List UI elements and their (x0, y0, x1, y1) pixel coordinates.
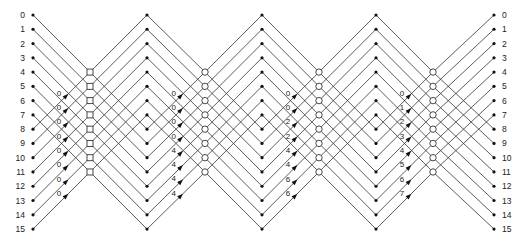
output-index-label: 6 (502, 96, 507, 106)
twiddle-label: 4 (286, 146, 291, 155)
butterfly-line (319, 129, 376, 186)
twiddle-label: 4 (286, 160, 291, 169)
butterfly-line (262, 58, 319, 115)
output-index-label: 12 (502, 181, 512, 191)
adder-circle-icon (202, 169, 208, 175)
butterfly-line (90, 29, 147, 86)
node-dot (260, 99, 263, 102)
input-index-label: 8 (20, 124, 25, 134)
butterfly-line (433, 15, 494, 72)
adder-circle-icon (316, 140, 322, 146)
butterfly-line (262, 15, 319, 72)
butterfly-line (319, 58, 376, 115)
node-dot (145, 85, 148, 88)
node-dot (374, 70, 377, 73)
butterfly-line (376, 172, 433, 229)
input-index-label: 1 (20, 24, 25, 34)
butterfly-line (33, 158, 90, 215)
node-dot (374, 42, 377, 45)
adder-circle-icon (202, 140, 208, 146)
node-dot (260, 213, 263, 216)
adder-square-icon (87, 69, 93, 75)
output-index-label: 7 (502, 110, 507, 120)
twiddle-label: 2 (286, 132, 291, 141)
butterfly-line (90, 172, 147, 229)
adder-circle-icon (430, 69, 436, 75)
node-dot (492, 128, 495, 131)
node-dot (145, 99, 148, 102)
node-dot (492, 56, 495, 59)
butterfly-lines (33, 15, 494, 229)
butterfly-line (262, 172, 319, 229)
node-dot (31, 199, 34, 202)
adder-circle-icon (202, 126, 208, 132)
butterfly-line (33, 58, 90, 115)
adder-circle-icon (316, 97, 322, 103)
output-index-label: 9 (502, 138, 507, 148)
twiddle-label: 2 (286, 117, 291, 126)
output-index-label: 8 (502, 124, 507, 134)
butterfly-line (33, 143, 90, 200)
butterfly-line (205, 44, 262, 101)
butterfly-line (376, 143, 433, 200)
node-dot (260, 113, 263, 116)
adder-square-icon (87, 169, 93, 175)
butterfly-line (433, 58, 494, 115)
twiddle-label: 0 (286, 103, 291, 112)
adder-square-icon (87, 83, 93, 89)
node-dot (374, 156, 377, 159)
adder-circle-icon (316, 169, 322, 175)
butterfly-line (262, 158, 319, 215)
input-index-label: 2 (20, 39, 25, 49)
butterfly-line (205, 158, 262, 215)
butterfly-line (205, 58, 262, 115)
butterfly-line (90, 143, 147, 200)
node-dot (145, 199, 148, 202)
butterfly-line (90, 129, 147, 186)
node-dot (31, 227, 34, 230)
node-dot (492, 42, 495, 45)
node-dot (492, 99, 495, 102)
twiddle-label: 0 (57, 146, 62, 155)
node-dot (260, 170, 263, 173)
node-dot (260, 128, 263, 131)
butterfly-line (433, 158, 494, 215)
butterfly-line (319, 158, 376, 215)
input-index-label: 5 (20, 81, 25, 91)
twiddle-label: 4 (172, 146, 177, 155)
node-dot (31, 142, 34, 145)
input-index-label: 7 (20, 110, 25, 120)
butterfly-line (376, 129, 433, 186)
butterfly-line (319, 143, 376, 200)
butterfly-line (90, 58, 147, 115)
fft-flow-graph: 0123456789101112131415012345678910111213… (0, 0, 528, 247)
output-index-label: 10 (502, 153, 512, 163)
twiddle-label: 6 (400, 175, 405, 184)
node-dot (145, 13, 148, 16)
output-index-label: 14 (502, 210, 512, 220)
twiddle-label: 0 (57, 160, 62, 169)
butterfly-line (433, 129, 494, 186)
butterfly-line (376, 58, 433, 115)
butterfly-line (90, 44, 147, 101)
node-dot (260, 199, 263, 202)
butterfly-line (90, 15, 147, 72)
node-dot (492, 70, 495, 73)
butterfly-line (262, 143, 319, 200)
node-dot (31, 56, 34, 59)
twiddle-label: 3 (400, 132, 405, 141)
butterfly-line (376, 15, 433, 72)
output-index-label: 4 (502, 67, 507, 77)
butterfly-line (319, 29, 376, 86)
butterfly-line (433, 172, 494, 229)
twiddle-label: 4 (172, 160, 177, 169)
node-dot (145, 227, 148, 230)
node-dot (492, 185, 495, 188)
node-dot (145, 70, 148, 73)
adder-circle-icon (430, 112, 436, 118)
node-dot (145, 170, 148, 173)
adder-circle-icon (430, 155, 436, 161)
adder-circle-icon (430, 83, 436, 89)
butterfly-line (433, 29, 494, 86)
butterfly-line (33, 172, 90, 229)
